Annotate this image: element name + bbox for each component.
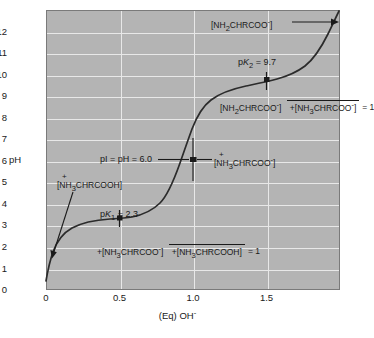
zwitterion-body: CHRCOO [233,158,271,168]
annotation-pk2: pK2 = 9.7 [238,57,276,71]
y-axis-tick: 5 [0,177,7,187]
y-axis-title: pH [9,155,21,165]
zwitterion-close: ] [273,158,275,168]
ratio-lower-num-close: ] [161,247,163,257]
y-axis-tick: 9 [0,91,7,101]
top-species-close: ] [270,20,272,30]
x-axis-tick: 1.5 [247,293,287,303]
annotation-ratio-upper: [NH2CHRCOO-] +[NH3CHRCOO-] = 1 [217,99,374,117]
ratio-lower-num-open: [NH [102,247,117,257]
ratio-upper-num-close: ] [279,103,281,113]
ratio-upper-equals: = 1 [359,102,374,113]
ratio-lower-equals: = 1 [245,246,260,257]
zwitterion-nitrogen: +[NH [214,158,229,169]
ratio-lower-fraction: +[NH3CHRCOO-] +[NH3CHRCOOH] [94,243,245,261]
y-axis-tick: 4 [0,199,7,209]
ratio-upper-denominator: +[NH3CHRCOO-] [287,100,359,113]
y-axis-tick: 3 [0,220,7,230]
top-species-open: [NH [211,20,226,30]
gridline-horizontal [47,33,339,34]
annotation-top-species: [NH2CHRCOO-] [211,16,272,34]
gridline-vertical [268,11,269,289]
annotation-pk1: pK1 = 2.3 [100,209,138,223]
cation-body: CHRCOOH [76,180,120,190]
cation-open: [NH [57,180,72,190]
ratio-lower-den-nitrogen: +[NH [172,247,192,257]
y-axis-tick: 1 [0,264,7,274]
ratio-upper-num-open: [NH [220,103,235,113]
y-axis-tick: 8 [0,113,7,123]
zwitterion-plus: + [219,151,224,159]
ratio-upper-num-body: CHRCOO [239,103,277,113]
x-axis-title-charge: - [194,308,197,317]
gridline-horizontal [47,119,339,120]
ratio-upper-fraction: [NH2CHRCOO-] +[NH3CHRCOO-] [217,99,359,117]
cation-plus: + [62,173,67,181]
ratio-lower-den-body: CHRCOOH [196,247,240,257]
ratio-upper-den-open: [NH [295,103,310,113]
pk2-value: = 9.7 [253,57,276,67]
ratio-lower-denominator: +[NH3CHRCOOH] [169,244,245,257]
ratio-lower-den-close: ] [240,247,242,257]
gridline-horizontal [47,162,339,163]
zwitterion-open: [NH [214,158,229,168]
y-axis-tick: 2 [0,242,7,252]
y-axis-tick: 11 [0,48,7,58]
x-axis-tick: 0 [26,293,66,303]
ratio-lower-numerator: +[NH3CHRCOO-] [94,247,166,258]
pk1-value: = 2.3 [115,209,138,219]
x-axis-tick: 1.0 [173,293,213,303]
gridline-horizontal [47,76,339,77]
y-axis-tick: 6 [0,156,7,166]
ratio-upper-den-close: ] [354,103,356,113]
y-axis-tick: 10 [0,70,7,80]
ratio-lower-num-body: CHRCOO [121,247,159,257]
ratio-lower-num-nitrogen: +[NH [97,247,117,257]
gridline-horizontal [47,270,339,271]
cation-nitrogen: +[NH [57,180,72,191]
ratio-upper-den-nitrogen: +[NH [290,103,310,113]
x-axis-title: (Eq) OH- [0,308,355,321]
gridline-horizontal [47,54,339,55]
annotation-pi: pI = pH = 6.0 [100,154,152,165]
gridline-horizontal [47,205,339,206]
gridline-horizontal [47,140,339,141]
cation-close: ] [120,180,122,190]
y-axis-tick: 0 [0,285,7,295]
gridline-horizontal [47,226,339,227]
ratio-upper-numerator: [NH2CHRCOO-] [217,103,284,114]
x-axis-tick: 0.5 [100,293,140,303]
y-axis-tick: 12 [0,27,7,37]
annotation-ratio-lower: +[NH3CHRCOO-] +[NH3CHRCOOH] = 1 [94,243,260,261]
ratio-upper-den-body: CHRCOO [314,103,352,113]
ratio-lower-den-open: [NH [177,247,192,257]
annotation-cation: +[NH3CHRCOOH] [57,180,122,194]
x-axis-title-text: (Eq) OH [159,310,194,321]
top-species-body: CHRCOO [230,20,268,30]
y-axis-tick: 7 [0,134,7,144]
annotation-zwitterion: +[NH3CHRCOO-] [214,154,275,172]
